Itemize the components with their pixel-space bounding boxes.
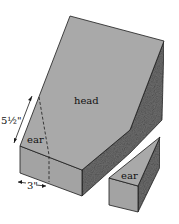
height-dimension-label: 5½" — [1, 115, 22, 126]
ear-label-wedge: ear — [121, 170, 138, 181]
ear-label-block: ear — [27, 134, 44, 145]
arrowhead-icon — [14, 138, 17, 143]
width-dimension-label: 3" — [27, 180, 38, 191]
head-label: head — [74, 95, 99, 106]
arrowhead-icon — [42, 184, 46, 188]
arrowhead-icon — [28, 96, 32, 101]
block-diagram: head ear ear 5½" 3" — [0, 0, 179, 224]
head-block-top-face — [20, 16, 164, 170]
arrowhead-icon — [18, 180, 22, 184]
